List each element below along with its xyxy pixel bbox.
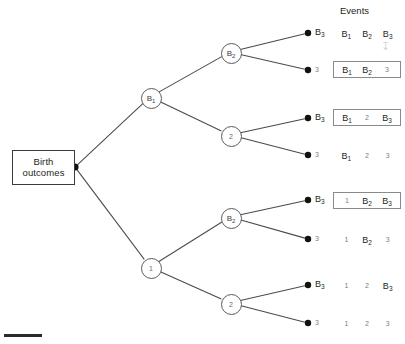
- event-cell-subscript: 1: [348, 117, 352, 124]
- event-row-E1: B1B2B3: [333, 25, 401, 42]
- tree-node-label: B2: [227, 214, 236, 223]
- leaf-dot: [305, 115, 311, 121]
- tree-edge: [239, 220, 305, 239]
- event-cell: 1: [337, 197, 357, 204]
- tree-edge: [239, 305, 305, 322]
- tree-node-n2b: 2: [221, 294, 242, 315]
- tree-node-subscript: 2: [232, 53, 235, 59]
- tree-node-B2b: B2: [221, 208, 242, 229]
- tree-edge: [239, 34, 305, 50]
- event-cell-subscript: 3: [388, 200, 392, 207]
- root-label-line1: Birth: [33, 157, 53, 168]
- event-cell-subscript: 3: [388, 117, 392, 124]
- tree-node-B2a: B2: [221, 43, 242, 64]
- event-cell: B3: [377, 281, 398, 291]
- leaf-label-L4: 3: [315, 151, 319, 158]
- tree-edge: [239, 119, 305, 133]
- event-cell-subscript: 3: [389, 33, 393, 40]
- tree-edge: [159, 101, 222, 131]
- event-cell: B2: [357, 29, 378, 39]
- edge-layer: [77, 34, 305, 322]
- event-cell: B1: [336, 151, 357, 161]
- tree-edge: [239, 54, 305, 69]
- event-cell: 1: [336, 320, 357, 327]
- page-rule-mark: [4, 334, 42, 337]
- event-row-E6: 1B23: [333, 231, 401, 248]
- leaf-dot: [305, 67, 311, 73]
- event-cell-subscript: 1: [348, 69, 352, 76]
- event-cell: 2: [357, 152, 378, 159]
- event-cell: B3: [377, 196, 397, 206]
- tree-node-label: 2: [229, 301, 233, 308]
- tree-node-n1: 1: [141, 258, 162, 279]
- event-cell: B2: [357, 196, 377, 206]
- leaf-label-L1: B3: [315, 27, 325, 37]
- leaf-label-L2: 3: [315, 66, 319, 73]
- tree-edge: [239, 286, 305, 301]
- event-cell: B2: [357, 65, 377, 75]
- event-row-E8: 123: [333, 315, 401, 332]
- tree-node-label: B2: [227, 49, 236, 58]
- tree-edge: [77, 170, 144, 260]
- leaf-label-subscript: 3: [321, 198, 325, 205]
- tree-node-B1: B1: [141, 88, 162, 109]
- event-cell: 3: [377, 320, 398, 327]
- event-cell: 2: [357, 114, 377, 121]
- leaf-dot: [305, 236, 311, 242]
- leaf-label-L5: B3: [315, 194, 325, 204]
- tree-node-n2a: 2: [221, 126, 242, 147]
- tree-node-label: 1: [149, 265, 153, 272]
- tree-edge: [77, 103, 143, 164]
- leaf-label-subscript: 3: [321, 283, 325, 290]
- event-cell-subscript: 3: [389, 285, 393, 292]
- event-cell: B1: [337, 65, 357, 75]
- leaf-label-subscript: 3: [321, 116, 325, 123]
- event-cell: B1: [337, 113, 357, 123]
- event-cell: 2: [357, 282, 378, 289]
- event-cell-subscript: 2: [368, 69, 372, 76]
- event-cell-subscript: 2: [368, 33, 372, 40]
- event-cell: 3: [377, 236, 398, 243]
- tree-edge: [158, 222, 222, 262]
- event-cell: 3: [377, 152, 398, 159]
- event-cell-subscript: 1: [348, 33, 352, 40]
- event-cell-subscript: 2: [368, 200, 372, 207]
- events-column-header: Events: [340, 5, 369, 16]
- leaf-label-L6: 3: [315, 235, 319, 242]
- tree-edge: [239, 201, 305, 215]
- tree-edge: [239, 137, 305, 154]
- event-row-E5: 1B2B3: [333, 192, 401, 209]
- root-node-birth-outcomes: Birth outcomes: [12, 150, 75, 185]
- probability-tree-figure: Birth outcomes Events ↧ B11B22B22 B33B33…: [0, 0, 405, 344]
- leaf-dot: [305, 282, 311, 288]
- event-cell-subscript: 2: [368, 239, 372, 246]
- event-cell: 3: [377, 66, 397, 73]
- event-cell: B3: [377, 113, 397, 123]
- tree-node-label: B1: [147, 94, 156, 103]
- leaf-dot: [305, 197, 311, 203]
- event-cell: B3: [377, 29, 398, 39]
- leaf-label-L8: 3: [315, 319, 319, 326]
- leaf-dot: [305, 30, 311, 36]
- event-cell: 1: [336, 282, 357, 289]
- event-row-E2: B1B23: [333, 61, 401, 78]
- event-cell: B2: [357, 235, 378, 245]
- leaf-label-L3: B3: [315, 112, 325, 122]
- tree-edge: [158, 57, 221, 93]
- event-cell: 1: [336, 236, 357, 243]
- leaf-dot: [305, 152, 311, 158]
- leaf-dot: [305, 320, 311, 326]
- event-row-E7: 12B3: [333, 277, 401, 294]
- root-label-line2: outcomes: [23, 168, 65, 179]
- tree-node-label: 2: [229, 133, 233, 140]
- tree-node-subscript: 2: [232, 218, 235, 224]
- tree-edge: [159, 271, 222, 299]
- tree-node-subscript: 1: [152, 98, 155, 104]
- event-cell: 2: [357, 320, 378, 327]
- event-cell: B1: [336, 29, 357, 39]
- leaf-label-L7: B3: [315, 279, 325, 289]
- event-row-E4: B123: [333, 147, 401, 164]
- event-cell-subscript: 1: [348, 155, 352, 162]
- leaf-label-subscript: 3: [321, 31, 325, 38]
- event-row-E3: B12B3: [333, 109, 401, 126]
